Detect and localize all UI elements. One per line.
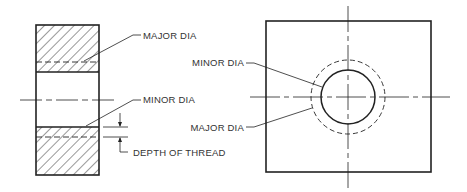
arrow-up-icon (118, 137, 122, 142)
label-depth-of-thread: DEPTH OF THREAD (133, 147, 226, 158)
section-view: MAJOR DIA MINOR DIA DEPTH OF THREAD (20, 25, 226, 175)
arrow-down-icon (118, 122, 122, 127)
label-major-dia: MAJOR DIA (143, 30, 197, 41)
end-view: MINOR DIA MAJOR DIA (190, 6, 450, 188)
label-minor-dia: MINOR DIA (143, 94, 195, 105)
bottom-wall-hatch (36, 127, 99, 175)
top-wall-hatch (36, 25, 99, 72)
thread-drawing: MAJOR DIA MINOR DIA DEPTH OF THREAD MINO… (0, 0, 467, 192)
end-view-outline (266, 21, 431, 172)
leader-end-minor-dia (246, 63, 322, 87)
label-end-major-dia: MAJOR DIA (190, 122, 244, 133)
label-end-minor-dia: MINOR DIA (192, 57, 244, 68)
leader-end-major-dia (246, 108, 312, 127)
leader-minor-dia (86, 100, 141, 126)
